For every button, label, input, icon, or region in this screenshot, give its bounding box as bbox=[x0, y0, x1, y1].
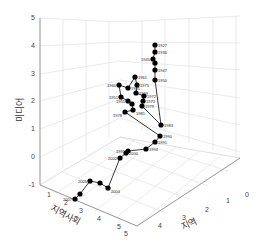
data-point bbox=[132, 74, 137, 79]
svg-text:3: 3 bbox=[31, 70, 35, 77]
point-label: 2005 bbox=[78, 179, 88, 184]
point-label: 1975 bbox=[140, 83, 150, 88]
point-label: 1990 bbox=[163, 134, 173, 139]
point-label: 1947 bbox=[158, 68, 168, 73]
svg-text:4: 4 bbox=[158, 222, 162, 229]
svg-text:1: 1 bbox=[47, 191, 51, 198]
grid bbox=[40, 16, 240, 226]
svg-text:2: 2 bbox=[31, 97, 35, 104]
point-label: 1979 bbox=[145, 104, 155, 109]
data-point bbox=[105, 185, 110, 190]
svg-text:-1: -1 bbox=[29, 181, 35, 188]
svg-text:4: 4 bbox=[97, 215, 101, 222]
svg-text:0: 0 bbox=[31, 153, 35, 160]
data-point bbox=[152, 77, 157, 82]
svg-text:3: 3 bbox=[79, 207, 83, 214]
point-label: 1965 bbox=[131, 86, 141, 91]
point-label: 1961 bbox=[138, 75, 148, 80]
point-label: 2004 bbox=[111, 189, 121, 194]
series-line bbox=[75, 45, 161, 199]
point-label: 1955 bbox=[116, 99, 126, 104]
point-labels: 1927193619451947195019831979197019721969… bbox=[63, 43, 174, 202]
data-point bbox=[129, 101, 134, 106]
chart-3d: 5 4 3 2 1 0 -1 1 2 3 4 5 5 4 3 2 1 0 미디어… bbox=[0, 0, 262, 251]
data-point bbox=[139, 103, 144, 108]
point-label: 1972 bbox=[147, 94, 157, 99]
data-point bbox=[97, 180, 102, 185]
data-point bbox=[77, 191, 82, 196]
z-axis-label: 미디어 bbox=[15, 98, 25, 122]
data-point bbox=[152, 42, 157, 47]
data-point bbox=[152, 139, 157, 144]
svg-text:5: 5 bbox=[31, 14, 35, 21]
z-ticks: 5 4 3 2 1 0 -1 bbox=[29, 14, 35, 188]
svg-text:5: 5 bbox=[117, 223, 121, 230]
svg-text:5: 5 bbox=[124, 230, 128, 237]
data-point bbox=[152, 67, 157, 72]
svg-text:1: 1 bbox=[226, 197, 230, 204]
svg-text:1: 1 bbox=[31, 125, 35, 132]
point-label: 1950 bbox=[158, 78, 168, 83]
data-point bbox=[130, 107, 135, 112]
y-axis-label: 지역사회 bbox=[49, 203, 82, 227]
data-point bbox=[72, 196, 77, 201]
point-label: 2002 bbox=[108, 156, 118, 161]
data-point bbox=[152, 49, 157, 54]
chart-canvas: 5 4 3 2 1 0 -1 1 2 3 4 5 5 4 3 2 1 0 미디어… bbox=[0, 0, 262, 251]
data-point bbox=[117, 155, 122, 160]
data-point bbox=[125, 85, 130, 90]
data-point bbox=[87, 178, 92, 183]
data-point bbox=[152, 60, 157, 65]
data-point bbox=[133, 90, 138, 95]
point-label: 1960 bbox=[107, 83, 117, 88]
point-label: 2007 bbox=[63, 197, 73, 202]
data-point bbox=[116, 82, 121, 87]
point-label: 1945 bbox=[141, 57, 151, 62]
point-label: 1978 bbox=[113, 113, 123, 118]
point-label: 1927 bbox=[158, 43, 168, 48]
svg-text:4: 4 bbox=[31, 42, 35, 49]
point-label: 1969 bbox=[139, 91, 149, 96]
point-label: 1981 bbox=[136, 111, 146, 116]
svg-text:2: 2 bbox=[205, 206, 209, 213]
svg-text:0: 0 bbox=[245, 191, 249, 198]
data-point bbox=[143, 146, 148, 151]
point-label: 1983 bbox=[164, 123, 174, 128]
point-label: 1995 bbox=[116, 149, 126, 154]
data-point bbox=[122, 109, 127, 114]
data-point bbox=[158, 122, 163, 127]
data-point bbox=[157, 133, 162, 138]
point-label: 1936 bbox=[158, 50, 168, 55]
point-label: 2000 bbox=[129, 151, 139, 156]
point-label: 1991 bbox=[158, 140, 168, 145]
point-label: 1994 bbox=[149, 147, 159, 152]
point-label: 1970 bbox=[146, 99, 156, 104]
